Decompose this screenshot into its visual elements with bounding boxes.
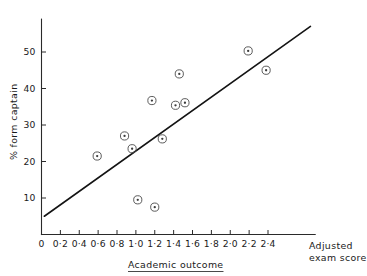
y-axis-title: % form captain [8,84,19,160]
y-tick-label: 20 [23,156,35,167]
y-tick-label: 50 [23,46,35,57]
data-point-center [131,148,133,150]
x-tick-label: 0·4 [72,238,87,249]
x-tick-label: 0 [38,238,44,249]
svg-text:Academic outcome: Academic outcome [128,259,223,270]
y-tick-label: 30 [23,119,35,130]
data-point-center [151,99,153,101]
x-axis-title: Academic outcome [128,259,223,272]
plot-area: 00·20·40·60·81·01·21·41·61·82·02·22·4 10… [0,0,367,276]
data-point-center [137,199,139,201]
svg-text:Adjusted: Adjusted [309,240,353,251]
scatter-chart: 00·20·40·60·81·01·21·41·61·82·02·22·4 10… [0,0,367,276]
data-point-center [161,138,163,140]
y-tick-label: 40 [23,83,35,94]
x-tick-label: 2·4 [260,238,275,249]
data-point-center [174,104,176,106]
x-tick-label: 1·2 [147,238,162,249]
data-point-center [184,102,186,104]
y-tick-label: 10 [23,192,35,203]
x-tick-label: 0·6 [91,238,106,249]
x-tick-label: 1·8 [204,238,219,249]
data-point-center [154,206,156,208]
x-tick-label: 2·0 [223,238,238,249]
x-tick-label: 2·2 [242,238,257,249]
x-tick-label: 0·2 [53,238,68,249]
data-point-center [96,155,98,157]
svg-text:exam score: exam score [309,252,367,263]
x-tick-label: 1·4 [166,238,181,249]
x-tick-label: 1·6 [185,238,200,249]
x-tick-label: 1·0 [128,238,143,249]
data-point-center [178,73,180,75]
x-tick-label: 0·8 [109,238,124,249]
data-point-center [247,50,249,52]
svg-text:% form captain: % form captain [8,84,19,160]
data-point-center [265,69,267,71]
data-point-center [123,135,125,137]
